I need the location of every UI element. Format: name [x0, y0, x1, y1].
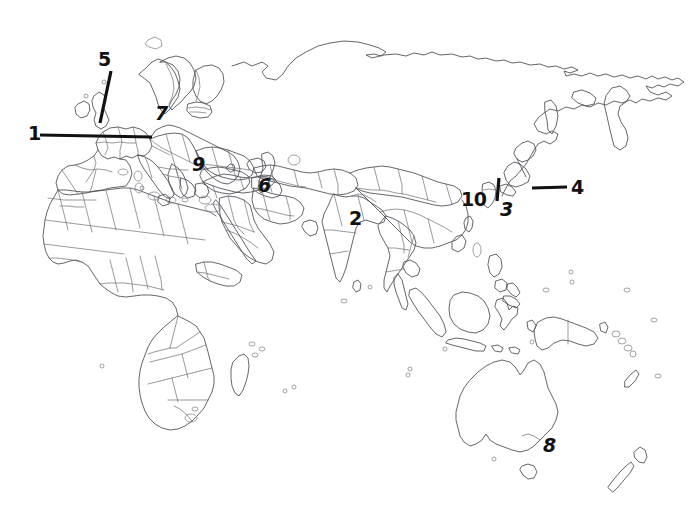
leader-line-1: [40, 135, 152, 137]
japan-islands: [500, 141, 536, 196]
central-southern-africa: [139, 316, 214, 430]
sakhalin-island: [545, 100, 558, 134]
map-label-8: 8: [543, 436, 556, 455]
aral-sea: [288, 155, 300, 165]
map-label-2: 2: [349, 209, 362, 228]
borneo-island: [449, 292, 490, 333]
north-africa: [43, 188, 216, 284]
taiwan-island: [464, 216, 473, 232]
world-map-outline: [0, 0, 692, 529]
new-caledonia-island: [625, 370, 639, 387]
sumatra-island: [409, 288, 446, 337]
map-label-3: 3: [500, 200, 513, 219]
sulawesi-island: [495, 298, 518, 330]
new-zealand-islands: [608, 447, 647, 492]
new-guinea-island: [527, 317, 598, 350]
india-subcontinent: [302, 194, 386, 292]
leader-line-3: [497, 178, 499, 201]
indochina-peninsula: [378, 216, 420, 292]
leader-line-5: [100, 71, 111, 123]
west-africa-coast: [100, 256, 178, 316]
map-label-5: 5: [98, 50, 111, 69]
leader-line-4: [532, 187, 567, 188]
madagascar-island: [231, 342, 265, 396]
mediterranean-islands: [118, 169, 221, 212]
iceland: [145, 37, 162, 49]
australia-continent: [456, 360, 558, 479]
java-island: [446, 338, 520, 354]
baltic-states: [187, 102, 212, 118]
map-label-1: 1: [28, 124, 41, 143]
map-label-7: 7: [155, 104, 168, 123]
finland-baltic: [193, 65, 224, 104]
kamchatka-peninsula: [572, 86, 630, 150]
map-label-6: 6: [258, 176, 271, 195]
map-label-10: 10: [461, 190, 486, 209]
horn-of-africa: [196, 262, 242, 286]
map-figure: 1 5 7 9 6 2 10 3 4 8: [0, 0, 692, 529]
map-label-4: 4: [571, 178, 584, 197]
ocean-islets: [84, 80, 661, 461]
iberian-peninsula: [75, 165, 112, 192]
map-label-9: 9: [192, 155, 205, 174]
malay-peninsula: [394, 274, 408, 310]
solomon-islands: [600, 322, 636, 357]
russia-arctic-coast: [232, 41, 684, 196]
leader-lines: [40, 71, 567, 201]
